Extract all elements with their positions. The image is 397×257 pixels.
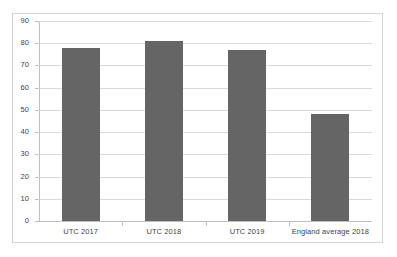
x-axis-category-label: England average 2018 xyxy=(289,228,372,236)
bar-chart-figure: 9080706050403020100 UTC 2017UTC 2018UTC … xyxy=(12,13,383,243)
bar-slot xyxy=(206,21,289,221)
bar[interactable] xyxy=(62,48,100,221)
x-axis-separator-tick xyxy=(122,222,123,226)
bar[interactable] xyxy=(228,50,266,221)
bar-slot xyxy=(289,21,372,221)
bar-slot xyxy=(39,21,122,221)
bar[interactable] xyxy=(145,41,183,221)
x-axis-category-label: UTC 2018 xyxy=(122,228,205,236)
x-axis-category-label: UTC 2017 xyxy=(39,228,122,236)
y-axis-tick-label: 80 xyxy=(13,39,29,47)
y-axis-tick-label: 70 xyxy=(13,61,29,69)
y-axis-tick-label: 20 xyxy=(13,173,29,181)
y-axis-tick-label: 40 xyxy=(13,128,29,136)
x-axis-separator-tick xyxy=(206,222,207,226)
x-axis-category-label: UTC 2019 xyxy=(206,228,289,236)
y-axis-tick-label: 0 xyxy=(13,217,29,225)
y-axis-tick-label: 90 xyxy=(13,17,29,25)
y-axis-tick-label: 30 xyxy=(13,150,29,158)
y-axis-tick-label: 60 xyxy=(13,84,29,92)
bar[interactable] xyxy=(311,114,349,221)
bar-slot xyxy=(122,21,205,221)
x-axis-separator-tick xyxy=(289,222,290,226)
y-axis-tick-label: 50 xyxy=(13,106,29,114)
plot-area xyxy=(39,21,372,221)
y-axis-tick-label: 10 xyxy=(13,195,29,203)
